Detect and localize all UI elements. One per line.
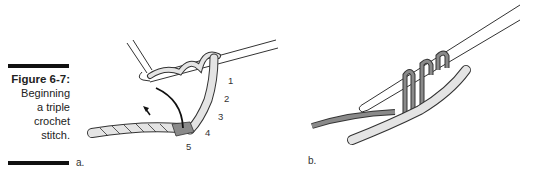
svg-text:2: 2 bbox=[224, 93, 229, 104]
curved-arrow-icon bbox=[156, 88, 183, 128]
crochet-illustration: 1 2 3 4 5 bbox=[0, 0, 552, 178]
svg-text:1: 1 bbox=[228, 75, 233, 86]
panel-a-illustration: 1 2 3 4 5 bbox=[92, 40, 278, 152]
svg-text:3: 3 bbox=[218, 111, 223, 122]
svg-text:4: 4 bbox=[205, 127, 210, 138]
svg-text:5: 5 bbox=[186, 141, 191, 152]
panel-b-illustration bbox=[312, 5, 520, 140]
